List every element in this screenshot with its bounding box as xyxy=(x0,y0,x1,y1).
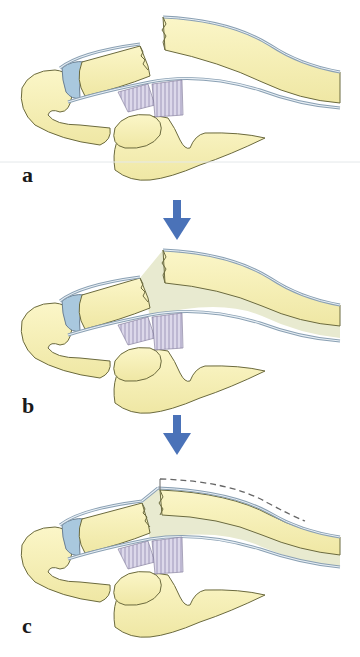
panel-label-a: a xyxy=(22,162,33,188)
panel-b: b xyxy=(0,238,360,438)
finger-diagram-c xyxy=(0,455,360,657)
panel-c: c xyxy=(0,455,360,657)
panel-a: a xyxy=(0,0,360,210)
down-arrow-icon xyxy=(163,415,191,455)
down-arrow-icon xyxy=(163,200,191,240)
finger-diagram-a xyxy=(0,0,360,210)
panel-label-b: b xyxy=(22,393,34,419)
finger-diagram-b xyxy=(0,238,360,438)
panel-label-c: c xyxy=(22,613,32,639)
